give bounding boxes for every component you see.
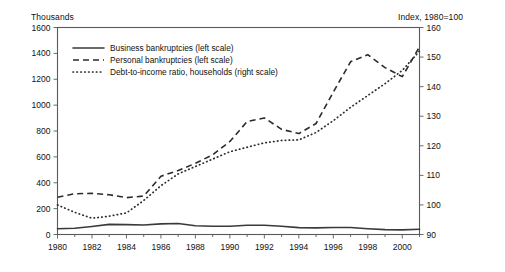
chart-plot-area: 02004006008001000120014001600 9010011012…: [0, 0, 505, 272]
x-tick-label: 1980: [48, 242, 67, 252]
y-axis-ticks: 02004006008001000120014001600: [32, 23, 58, 240]
legend-label-1: Personal bankruptcies (left scale): [110, 55, 233, 65]
y-tick-label: 800: [36, 126, 50, 136]
chart-legend: Business bankruptcies (left scale)Person…: [73, 43, 278, 77]
y-tick-label: 0: [46, 230, 51, 240]
x-tick-label: 1984: [117, 242, 136, 252]
y2-tick-label: 150: [427, 52, 441, 62]
x-tick-label: 2000: [393, 242, 412, 252]
x-axis-ticks: 1980198219841986198819901992199419961998…: [48, 235, 419, 252]
y2-tick-label: 120: [427, 141, 441, 151]
legend-label-0: Business bankruptcies (left scale): [110, 43, 234, 53]
x-tick-label: 1986: [151, 242, 170, 252]
x-tick-label: 1990: [220, 242, 239, 252]
y-tick-label: 200: [36, 204, 50, 214]
y2-axis-ticks: 90100110120130140150160: [420, 23, 441, 240]
series-line-0: [58, 224, 420, 230]
x-tick-label: 1982: [83, 242, 102, 252]
x-tick-label: 1996: [324, 242, 343, 252]
legend-label-2: Debt-to-income ratio, households (right …: [110, 67, 278, 77]
y2-tick-label: 110: [427, 170, 441, 180]
y2-tick-label: 100: [427, 200, 441, 210]
y-tick-label: 1000: [32, 100, 51, 110]
y-tick-label: 600: [36, 152, 50, 162]
y-tick-label: 1600: [32, 23, 51, 33]
y2-tick-label: 90: [427, 230, 437, 240]
x-tick-label: 1998: [358, 242, 377, 252]
y-tick-label: 1200: [32, 74, 51, 84]
x-tick-label: 1994: [289, 242, 308, 252]
y2-tick-label: 130: [427, 111, 441, 121]
y2-tick-label: 140: [427, 82, 441, 92]
y-tick-label: 1400: [32, 48, 51, 58]
y2-tick-label: 160: [427, 23, 441, 33]
bankruptcy-debt-chart-figure: Thousands Index, 1980=100 02004006008001…: [0, 0, 505, 272]
x-tick-label: 1992: [255, 242, 274, 252]
y-tick-label: 400: [36, 178, 50, 188]
x-tick-label: 1988: [186, 242, 205, 252]
